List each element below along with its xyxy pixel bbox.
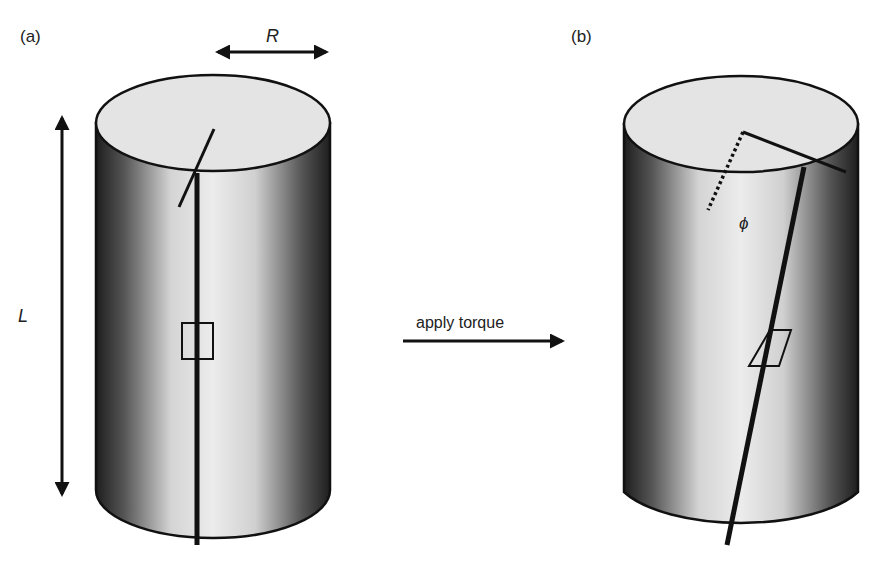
length-arrow: L [18, 118, 62, 494]
radius-label: R [266, 26, 279, 46]
panel-b-label: (b) [571, 27, 592, 46]
length-label: L [18, 306, 28, 326]
panel-a: (a) R L [18, 26, 330, 545]
cylinder-twisted: ϕ [624, 76, 858, 545]
panel-a-label: (a) [20, 27, 41, 46]
apply-torque-arrow: apply torque [403, 314, 562, 341]
angle-label: ϕ [739, 214, 748, 233]
cylinder-untwisted [96, 75, 330, 545]
radius-arrow: R [218, 26, 326, 52]
torsion-diagram: (a) R L apply torque (b) [0, 0, 888, 567]
apply-torque-label: apply torque [416, 314, 504, 331]
panel-b: (b) ϕ [571, 27, 858, 545]
